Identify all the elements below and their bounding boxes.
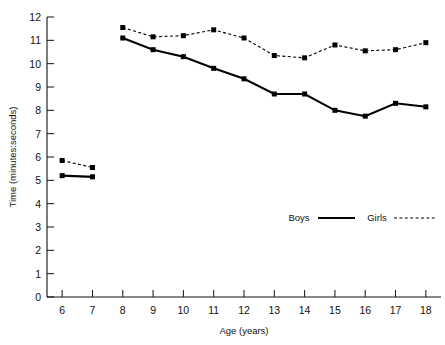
x-axis: 6789101112131415161718	[47, 290, 441, 316]
data-point-girls	[363, 48, 368, 53]
x-tick-label: 9	[150, 304, 156, 316]
data-point-boys	[151, 47, 156, 52]
data-point-girls	[60, 158, 65, 163]
data-point-boys	[211, 66, 216, 71]
chart-container: 0123456789101112 6789101112131415161718 …	[0, 0, 445, 345]
data-point-girls	[302, 55, 307, 60]
y-tick-label: 9	[35, 81, 41, 93]
series-line-boys	[123, 38, 426, 116]
data-point-boys	[332, 108, 337, 113]
series-line-boys	[62, 176, 92, 177]
x-tick-group: 6789101112131415161718	[59, 290, 432, 316]
x-tick-label: 10	[178, 304, 190, 316]
y-axis-title: Time (minutes:seconds)	[7, 106, 18, 207]
y-tick-group: 0123456789101112	[29, 11, 54, 303]
data-point-girls	[90, 165, 95, 170]
y-tick-label: 12	[29, 11, 41, 23]
y-tick-label: 4	[35, 198, 41, 210]
data-point-boys	[181, 54, 186, 59]
data-point-girls	[332, 43, 337, 48]
series-layer	[60, 25, 429, 179]
data-point-girls	[242, 36, 247, 41]
data-point-boys	[423, 104, 428, 109]
data-point-boys	[363, 114, 368, 119]
data-point-girls	[393, 47, 398, 52]
x-tick-label: 16	[359, 304, 371, 316]
x-tick-label: 17	[390, 304, 402, 316]
data-point-boys	[90, 174, 95, 179]
y-tick-label: 2	[35, 244, 41, 256]
legend-label-boys: Boys	[288, 212, 309, 223]
x-tick-label: 18	[420, 304, 432, 316]
series-girls	[60, 25, 429, 170]
y-tick-label: 11	[30, 34, 41, 46]
data-point-girls	[151, 34, 156, 39]
data-point-boys	[393, 101, 398, 106]
y-tick-label: 5	[35, 174, 41, 186]
data-point-boys	[272, 92, 277, 97]
legend-label-girls: Girls	[367, 212, 387, 223]
series-boys	[60, 36, 429, 180]
x-tick-label: 12	[238, 304, 250, 316]
x-tick-label: 8	[120, 304, 126, 316]
x-tick-label: 13	[268, 304, 280, 316]
x-tick-label: 14	[299, 304, 311, 316]
data-point-girls	[211, 27, 216, 32]
y-tick-label: 6	[35, 151, 41, 163]
x-axis-title: Age (years)	[219, 325, 268, 336]
y-axis: 0123456789101112	[29, 11, 54, 303]
series-line-girls	[62, 161, 92, 168]
y-tick-label: 7	[35, 128, 41, 140]
data-point-girls	[272, 53, 277, 58]
data-point-boys	[302, 92, 307, 97]
y-tick-label: 10	[29, 58, 41, 70]
x-tick-label: 6	[59, 304, 65, 316]
data-point-boys	[242, 76, 247, 81]
data-point-boys	[120, 36, 125, 41]
y-tick-label: 0	[35, 291, 41, 303]
data-point-boys	[60, 173, 65, 178]
y-tick-label: 3	[35, 221, 41, 233]
legend: Boys Girls	[288, 212, 437, 223]
data-point-girls	[181, 33, 186, 38]
line-chart: 0123456789101112 6789101112131415161718 …	[0, 0, 445, 345]
data-point-girls	[120, 25, 125, 30]
x-tick-label: 15	[329, 304, 341, 316]
data-point-girls	[423, 40, 428, 45]
y-tick-label: 1	[35, 268, 41, 280]
y-tick-label: 8	[35, 104, 41, 116]
x-tick-label: 7	[90, 304, 96, 316]
x-tick-label: 11	[208, 304, 219, 316]
